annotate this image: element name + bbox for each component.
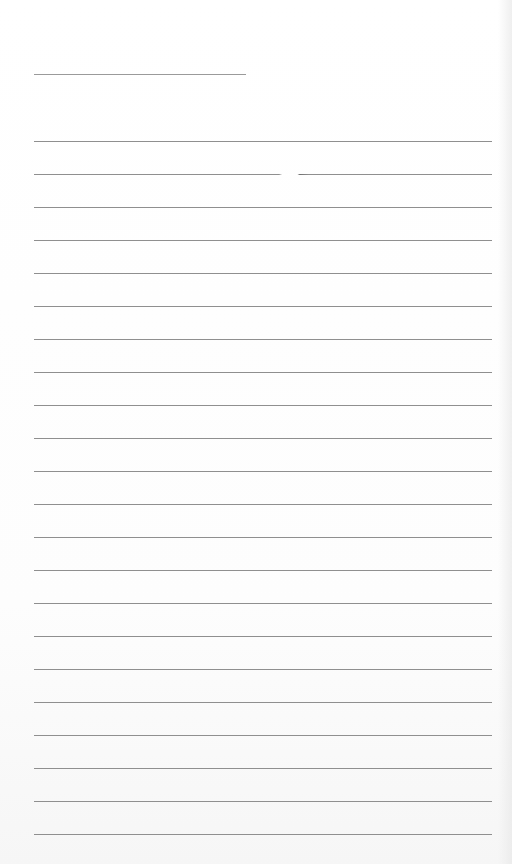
ruled-line — [34, 702, 492, 703]
lined-page — [0, 0, 512, 864]
ruled-line — [34, 207, 492, 208]
ruled-line — [34, 273, 492, 274]
ruled-line — [34, 306, 492, 307]
ruled-line — [34, 141, 492, 142]
ruled-line — [34, 768, 492, 769]
ruled-line — [34, 405, 492, 406]
ruled-line — [34, 372, 492, 373]
ruled-line — [34, 174, 492, 175]
ruled-line — [34, 669, 492, 670]
ruled-line — [34, 240, 492, 241]
ruled-line — [34, 339, 492, 340]
ruled-line — [34, 834, 492, 835]
ruled-line — [34, 471, 492, 472]
ruled-line — [34, 438, 492, 439]
ruled-line — [34, 735, 492, 736]
header-write-line — [34, 74, 246, 75]
ruled-line — [34, 537, 492, 538]
ruled-line — [34, 504, 492, 505]
ruled-line — [34, 603, 492, 604]
ruled-line — [34, 570, 492, 571]
ruled-line — [34, 636, 492, 637]
ruled-line — [34, 801, 492, 802]
